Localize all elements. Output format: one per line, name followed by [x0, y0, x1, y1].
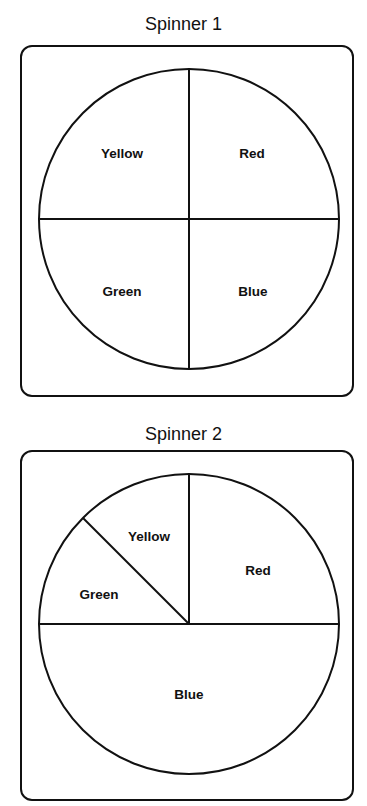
spinner-2 [39, 474, 339, 774]
spinner-1-section-blue: Blue [238, 284, 268, 299]
spinner-1-section-green: Green [102, 284, 141, 299]
spinner-1 [39, 69, 339, 369]
spinner-2-section-blue: Blue [174, 687, 204, 702]
spinner-2-section-yellow: Yellow [128, 529, 171, 544]
spinner-2-section-red: Red [245, 563, 271, 578]
spinner-1-section-red: Red [239, 146, 265, 161]
spinners-drawing: Yellow Red Green Blue Yellow Red Green B… [0, 0, 367, 806]
spinner-1-section-yellow: Yellow [101, 146, 144, 161]
spinner-2-section-green: Green [79, 587, 118, 602]
